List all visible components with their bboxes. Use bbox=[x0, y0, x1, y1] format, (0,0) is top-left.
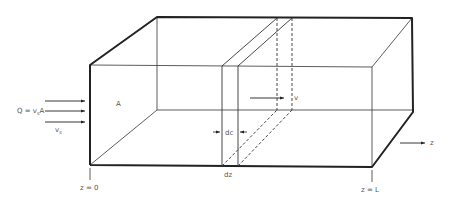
dz-label: dz bbox=[224, 171, 232, 179]
dc-label: dc bbox=[225, 129, 233, 137]
box-back-edges bbox=[90, 17, 413, 167]
z-axis-label: z bbox=[430, 139, 434, 147]
plug-flow-reactor-diagram: Q = vsA vs A dc dz v z = 0 z = L z bbox=[0, 0, 458, 203]
slice-hidden bbox=[222, 18, 292, 166]
z0-label: z = 0 bbox=[80, 184, 98, 192]
inflow-arrows bbox=[45, 101, 85, 122]
area-label: A bbox=[116, 100, 121, 108]
velocity-label: vs bbox=[55, 126, 62, 135]
slice-front bbox=[222, 18, 292, 166]
box-outline bbox=[90, 17, 413, 167]
inner-velocity-label: v bbox=[294, 94, 298, 102]
zL-label: z = L bbox=[361, 186, 379, 194]
flow-label: Q = vsA bbox=[17, 107, 45, 116]
